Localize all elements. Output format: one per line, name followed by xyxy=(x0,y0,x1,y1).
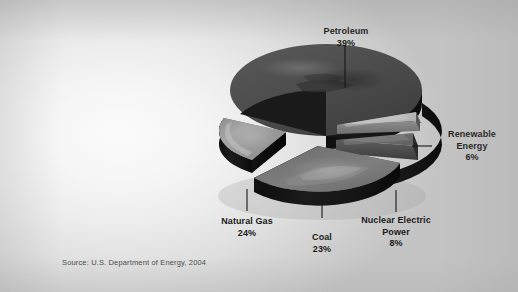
label-coal-pct: 23% xyxy=(290,244,354,256)
label-coal-name: Coal xyxy=(312,232,332,242)
label-nuclear-electric-power: Nuclear Electric Power 8% xyxy=(355,215,437,250)
label-petroleum-name: Petroleum xyxy=(324,26,369,36)
label-petroleum-pct: 39% xyxy=(310,38,382,50)
label-renewable-line1: Renewable xyxy=(448,129,496,139)
label-natural-gas: Natural Gas 24% xyxy=(197,216,297,239)
petroleum-highlight xyxy=(260,58,340,78)
label-nuclear-line2: Power xyxy=(355,227,437,239)
label-natural-gas-name: Natural Gas xyxy=(221,216,273,226)
pie-chart-figure: Petroleum 39% Renewable Energy 6% Nuclea… xyxy=(0,0,518,292)
source-note: Source: U.S. Department of Energy, 2004 xyxy=(62,258,206,267)
label-petroleum: Petroleum 39% xyxy=(310,26,382,49)
label-nuclear-line1: Nuclear Electric xyxy=(361,215,431,225)
label-coal: Coal 23% xyxy=(290,232,354,255)
label-renewable-line2: Energy xyxy=(432,141,512,153)
label-renewable-energy: Renewable Energy 6% xyxy=(432,129,512,164)
coal-gloss xyxy=(288,157,372,183)
label-nuclear-pct: 8% xyxy=(355,238,437,250)
label-renewable-pct: 6% xyxy=(432,152,512,164)
label-natural-gas-pct: 24% xyxy=(197,228,297,240)
